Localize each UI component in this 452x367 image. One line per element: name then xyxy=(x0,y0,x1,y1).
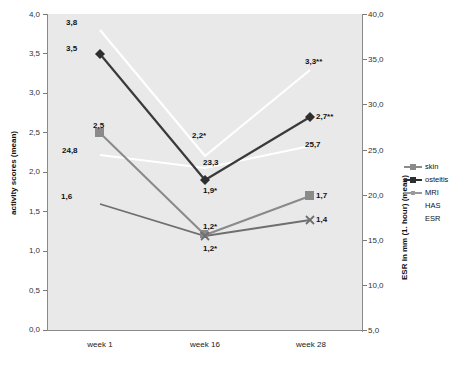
data-label-esr-week-16: 23,3 xyxy=(203,158,219,167)
data-label-skin-week-16: 1,2* xyxy=(203,244,217,253)
legend-item-osteitis[interactable]: osteitis xyxy=(404,173,448,186)
data-label-esr-week-28: 25,7 xyxy=(305,140,321,149)
data-label-osteitis-week-1: 3,5 xyxy=(66,44,77,53)
series-plot xyxy=(0,0,452,367)
data-label-has-week-1: 3,8 xyxy=(66,18,77,27)
legend-key-osteitis-icon xyxy=(404,175,422,184)
legend-label-esr: ESR xyxy=(425,214,440,223)
data-label-has-week-16: 2,2* xyxy=(192,131,206,140)
legend-label-skin: skin xyxy=(425,162,438,171)
data-label-esr-week-1: 24,8 xyxy=(62,146,78,155)
legend-label-mri: MRI xyxy=(425,188,439,197)
data-label-osteitis-week-28: 2,7** xyxy=(316,112,333,121)
data-label-mri-week-1: 1,6 xyxy=(61,192,72,201)
legend-item-has[interactable]: HAS xyxy=(404,199,448,212)
legend-key-skin-icon xyxy=(404,162,422,171)
data-label-mri-week-28: 1,4 xyxy=(316,215,327,224)
chart-legend: skin osteitis MRI HAS ESR xyxy=(404,160,448,225)
legend-item-skin[interactable]: skin xyxy=(404,160,448,173)
marker-osteitis-week-28 xyxy=(305,112,315,122)
data-label-skin-week-1: 2,5 xyxy=(93,121,104,130)
legend-key-mri-icon xyxy=(404,188,422,197)
legend-item-mri[interactable]: MRI xyxy=(404,186,448,199)
chart-container: 4,0 3,5 3,0 2,5 2,0 1,5 1,0 0,5 0,0 40,0… xyxy=(0,0,452,367)
data-label-mri-week-16: 1,2* xyxy=(203,222,217,231)
data-label-has-week-28: 3,3** xyxy=(305,57,322,66)
data-label-skin-week-28: 1,7 xyxy=(316,191,327,200)
legend-label-osteitis: osteitis xyxy=(425,175,448,184)
legend-item-esr[interactable]: ESR xyxy=(404,212,448,225)
data-label-osteitis-week-16: 1,9* xyxy=(203,186,217,195)
marker-skin-week-28 xyxy=(305,191,314,200)
legend-label-has: HAS xyxy=(425,201,440,210)
